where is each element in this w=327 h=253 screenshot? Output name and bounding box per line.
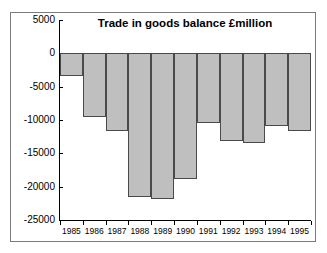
plot-area bbox=[60, 20, 311, 220]
x-axis-tick-label: 1995 bbox=[288, 227, 311, 236]
x-axis-tick bbox=[60, 221, 61, 225]
x-axis-tick bbox=[220, 221, 221, 225]
bar bbox=[265, 53, 288, 126]
bar bbox=[243, 53, 266, 143]
x-axis-tick bbox=[106, 221, 107, 225]
y-axis-tick-label: -20000 bbox=[24, 182, 55, 192]
x-axis-tick bbox=[265, 221, 266, 225]
bar bbox=[197, 53, 220, 122]
bar bbox=[288, 53, 311, 131]
x-axis-tick-label: 1992 bbox=[220, 227, 243, 236]
y-axis-tick-label: -5000 bbox=[29, 82, 55, 92]
x-axis-tick-label: 1991 bbox=[197, 227, 220, 236]
x-axis-tick-label: 1989 bbox=[151, 227, 174, 236]
x-axis-tick bbox=[243, 221, 244, 225]
x-axis-tick bbox=[174, 221, 175, 225]
y-axis-tick-label: -25000 bbox=[24, 215, 55, 225]
y-axis-tick-label: 5000 bbox=[33, 15, 55, 25]
x-axis-tick-label: 1988 bbox=[128, 227, 151, 236]
bar bbox=[128, 53, 151, 196]
bar bbox=[106, 53, 129, 130]
chart-figure: Trade in goods balance £million 50000-50… bbox=[0, 0, 327, 253]
x-axis-tick-label: 1994 bbox=[265, 227, 288, 236]
x-axis-tick-label: 1987 bbox=[106, 227, 129, 236]
x-axis-tick bbox=[128, 221, 129, 225]
x-axis-tick bbox=[151, 221, 152, 225]
y-axis-tick-label: 0 bbox=[49, 48, 55, 58]
x-axis-tick-label: 1993 bbox=[243, 227, 266, 236]
bar bbox=[83, 53, 106, 116]
bar bbox=[60, 53, 83, 76]
bar bbox=[151, 53, 174, 198]
x-axis-tick bbox=[197, 221, 198, 225]
y-axis-tick-label: -10000 bbox=[24, 115, 55, 125]
x-axis-tick-label: 1985 bbox=[60, 227, 83, 236]
x-axis-tick bbox=[311, 221, 312, 225]
x-axis-tick-label: 1986 bbox=[83, 227, 106, 236]
x-axis-tick bbox=[83, 221, 84, 225]
bar bbox=[220, 53, 243, 140]
y-axis-tick-label: -15000 bbox=[24, 148, 55, 158]
x-axis-tick bbox=[288, 221, 289, 225]
bar bbox=[174, 53, 197, 179]
x-axis-line bbox=[59, 220, 311, 221]
x-axis-tick-label: 1990 bbox=[174, 227, 197, 236]
